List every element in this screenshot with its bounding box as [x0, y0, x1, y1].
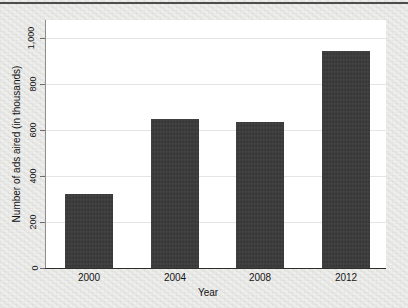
y-tick-label-0: 0: [30, 265, 40, 270]
bar-2012: [322, 51, 370, 268]
y-tick-label-800: 800: [28, 76, 38, 91]
x-tick-label-2004: 2004: [164, 272, 186, 283]
bar-2008: [236, 122, 284, 268]
bar-2004: [151, 119, 199, 268]
x-tick-label-2000: 2000: [78, 272, 100, 283]
y-tick-mark-1000: [40, 38, 45, 39]
gridline-1000: [45, 38, 386, 39]
x-axis-title: Year: [198, 287, 218, 298]
bar-chart-figure: 1,000 800 600 400 200 0 Number of ads ai…: [0, 6, 408, 306]
y-tick-mark-0: [40, 268, 45, 269]
top-horizontal-rule: [0, 2, 408, 4]
y-tick-label-600: 600: [28, 122, 38, 137]
y-axis-title: Number of ads aired (in thousands): [11, 66, 22, 223]
x-tick-label-2012: 2012: [335, 272, 357, 283]
y-tick-mark-200: [40, 222, 45, 223]
bar-2000: [65, 194, 113, 268]
plot-area: [45, 20, 386, 268]
y-tick-label-400: 400: [28, 168, 38, 183]
x-axis-line: [45, 268, 386, 269]
y-axis-line: [45, 20, 46, 269]
y-tick-mark-600: [40, 130, 45, 131]
y-tick-mark-800: [40, 84, 45, 85]
y-tick-mark-400: [40, 176, 45, 177]
y-tick-label-200: 200: [28, 214, 38, 229]
x-tick-label-2008: 2008: [249, 272, 271, 283]
y-tick-label-1000: 1,000: [26, 27, 36, 50]
